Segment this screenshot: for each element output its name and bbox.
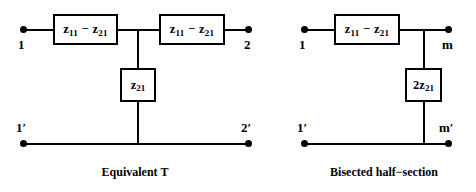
terminal-label-right-in-top: 1 [299,38,306,51]
component-left-shunt: z21 [120,68,156,102]
component-left-series-2: z11 − z21 [159,14,225,45]
component-left-series-2-label: z11 − z21 [170,23,215,36]
terminal-label-left-in-bottom: 1′ [16,121,26,134]
component-right-shunt: 2z21 [405,68,442,102]
circuit-figure: z11 − z21 z11 − z21 z21 1 2 1′ 2′ Equiva… [0,0,476,192]
terminal-label-right-out-top: m [442,38,453,51]
terminal-node-right-out-bottom[interactable] [445,140,452,147]
terminal-node-right-in-bottom[interactable] [301,140,308,147]
wire-left-shunt-upper [137,29,139,69]
terminal-node-left-out-bottom[interactable] [245,140,252,147]
terminal-label-right-out-bottom: m′ [439,121,454,134]
wire-right-shunt-lower [423,101,425,144]
component-right-series-1-label: z11 − z21 [345,23,390,36]
terminal-label-right-in-bottom: 1′ [297,121,307,134]
wire-left-input-top [24,29,54,31]
component-right-shunt-label: 2z21 [413,79,434,92]
wire-right-input-top [305,29,335,31]
component-left-series-1: z11 − z21 [53,14,118,45]
terminal-node-right-out-top[interactable] [445,26,452,33]
terminal-node-right-in-top[interactable] [301,26,308,33]
component-left-series-1-label: z11 − z21 [63,23,108,36]
caption-bisected-half-section: Bisected half−section [292,166,476,178]
wire-right-bottom-rail [305,143,448,145]
terminal-node-left-out-top[interactable] [245,26,252,33]
terminal-node-left-in-bottom[interactable] [20,140,27,147]
caption-equivalent-t: Equivalent T [0,166,270,178]
terminal-label-left-out-bottom: 2′ [241,121,251,134]
terminal-label-left-out-top: 2 [244,38,251,51]
component-left-shunt-label: z21 [131,79,146,92]
component-right-series-1: z11 − z21 [334,14,400,45]
terminal-label-left-in-top: 1 [18,38,25,51]
wire-left-bottom-rail [24,143,249,145]
terminal-node-left-in-top[interactable] [20,26,27,33]
wire-left-shunt-lower [137,101,139,144]
wire-right-shunt-upper [423,29,425,69]
